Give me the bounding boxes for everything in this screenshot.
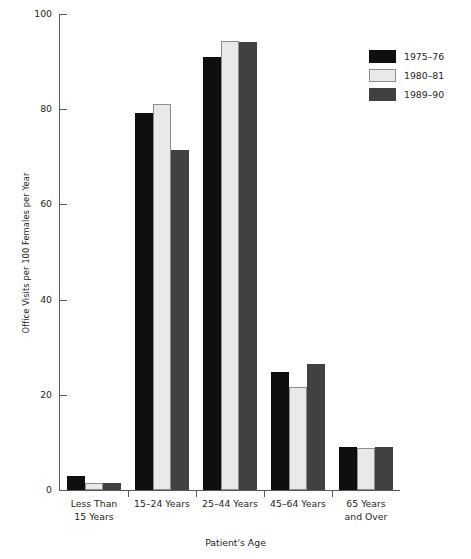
x-separator [332, 491, 333, 497]
category-label-line: 15–24 Years [128, 498, 196, 511]
bar [221, 41, 239, 490]
plot-area [60, 14, 400, 490]
y-tick-label-80: 80 [12, 104, 52, 113]
category-label: 15–24 Years [128, 498, 196, 511]
x-axis-label: Patient's Age [0, 537, 471, 548]
bar [271, 372, 289, 490]
bar-chart: Office Visits per 100 Females per Year 0… [0, 0, 471, 559]
legend-swatch [369, 69, 396, 82]
bar [67, 476, 85, 490]
legend-label: 1980–81 [404, 70, 444, 81]
y-tick-40 [60, 300, 67, 301]
legend-swatch [369, 88, 396, 101]
x-separator [264, 491, 265, 497]
y-tick-label-0: 0 [12, 485, 52, 494]
y-axis-line [59, 14, 60, 491]
bar [375, 447, 393, 490]
bar [153, 104, 171, 490]
legend-swatch [369, 50, 396, 63]
bar [135, 113, 153, 490]
bar [307, 364, 325, 490]
category-label-line: 15 Years [60, 511, 128, 524]
legend: 1975–761980–811989–90 [369, 47, 444, 104]
category-label: 45–64 Years [264, 498, 332, 511]
bar [239, 42, 257, 490]
legend-item: 1980–81 [369, 66, 444, 85]
y-tick-60 [60, 204, 67, 205]
category-label: 65 Yearsand Over [332, 498, 400, 523]
category-label: Less Than15 Years [60, 498, 128, 523]
y-axis-label: Office Visits per 100 Females per Year [21, 143, 31, 363]
legend-item: 1989–90 [369, 85, 444, 104]
category-label: 25–44 Years [196, 498, 264, 511]
x-axis-line [59, 490, 400, 491]
bar [171, 150, 189, 490]
bar [357, 448, 375, 490]
legend-label: 1989–90 [404, 89, 444, 100]
category-label-line: Less Than [60, 498, 128, 511]
bar [203, 57, 221, 490]
x-separator [196, 491, 197, 497]
bar [339, 447, 357, 490]
bar [289, 387, 307, 490]
category-label-line: 65 Years [332, 498, 400, 511]
y-tick-100 [60, 14, 67, 15]
category-label-line: 45–64 Years [264, 498, 332, 511]
y-tick-20 [60, 395, 67, 396]
y-tick-0 [60, 490, 67, 491]
category-label-line: and Over [332, 511, 400, 524]
bar [103, 483, 121, 490]
category-label-line: 25–44 Years [196, 498, 264, 511]
y-tick-label-60: 60 [12, 199, 52, 208]
legend-item: 1975–76 [369, 47, 444, 66]
y-tick-label-40: 40 [12, 295, 52, 304]
bar [85, 483, 103, 490]
y-tick-label-100: 100 [12, 9, 52, 18]
y-tick-80 [60, 109, 67, 110]
y-tick-label-20: 20 [12, 390, 52, 399]
x-separator [128, 491, 129, 497]
legend-label: 1975–76 [404, 51, 444, 62]
